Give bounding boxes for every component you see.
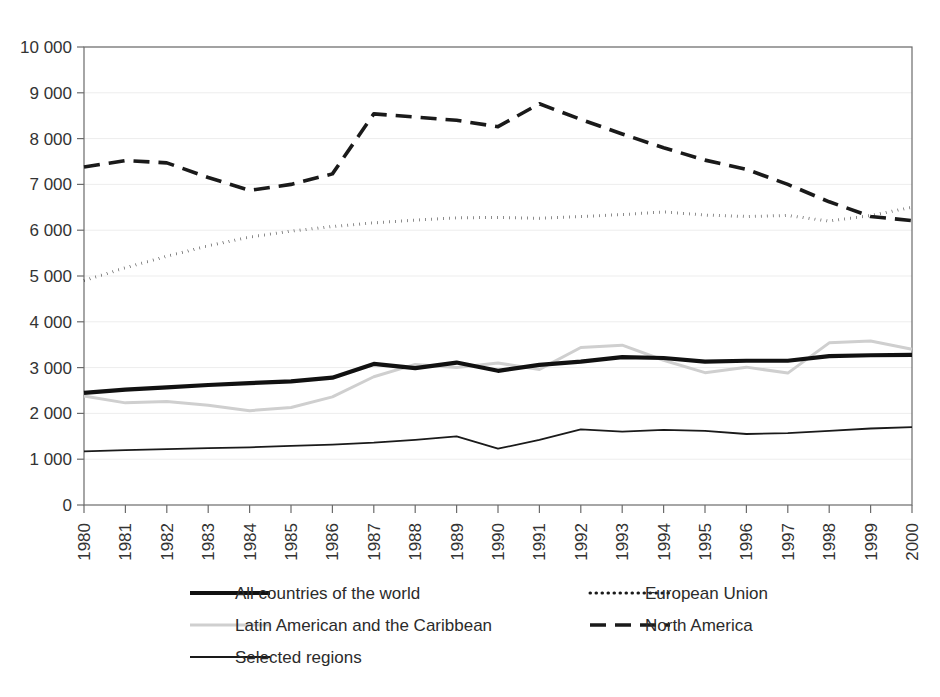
y-tick-label: 8 000	[29, 130, 72, 149]
chart-container: 01 0002 0003 0004 0005 0006 0007 0008 00…	[0, 0, 940, 697]
x-tick-label: 1992	[572, 523, 591, 561]
x-tick-label: 1990	[489, 523, 508, 561]
x-tick-label: 1994	[655, 523, 674, 561]
x-tick-label: 1986	[323, 523, 342, 561]
x-tick-label: 1996	[737, 523, 756, 561]
series-group	[84, 104, 912, 452]
line-chart: 01 0002 0003 0004 0005 0006 0007 0008 00…	[0, 0, 940, 697]
x-tick-label: 1997	[779, 523, 798, 561]
x-tick-label: 1998	[820, 523, 839, 561]
legend-label-european-union: European Union	[645, 584, 768, 603]
y-tick-label: 1 000	[29, 450, 72, 469]
legend-item-european-union[interactable]: European Union	[590, 584, 768, 603]
legend-group: All countries of the worldEuropean Union…	[190, 584, 768, 667]
legend-item-all-countries[interactable]: All countries of the world	[190, 584, 420, 603]
series-line-latin-america-caribbean	[84, 341, 912, 411]
series-line-selected-regions	[84, 427, 912, 451]
legend-label-selected-regions: Selected regions	[235, 648, 362, 667]
x-tick-label: 1982	[158, 523, 177, 561]
x-tick-label: 1999	[862, 523, 881, 561]
legend-item-selected-regions[interactable]: Selected regions	[190, 648, 362, 667]
x-axis-group: 1980198119821983198419851986198719881989…	[75, 505, 922, 561]
x-tick-label: 1991	[530, 523, 549, 561]
y-tick-label: 2 000	[29, 404, 72, 423]
legend-item-latin-america-caribbean[interactable]: Latin American and the Caribbean	[190, 616, 492, 635]
y-axis-group: 01 0002 0003 0004 0005 0006 0007 0008 00…	[20, 38, 84, 515]
y-tick-label: 9 000	[29, 84, 72, 103]
legend-label-all-countries: All countries of the world	[235, 584, 420, 603]
y-tick-label: 5 000	[29, 267, 72, 286]
x-tick-label: 1984	[241, 523, 260, 561]
x-tick-label: 1995	[696, 523, 715, 561]
y-tick-label: 0	[63, 496, 72, 515]
x-tick-label: 1987	[365, 523, 384, 561]
x-tick-label: 1988	[406, 523, 425, 561]
x-tick-label: 1983	[199, 523, 218, 561]
x-tick-label: 1989	[448, 523, 467, 561]
x-tick-label: 1980	[75, 523, 94, 561]
legend-label-latin-america-caribbean: Latin American and the Caribbean	[235, 616, 492, 635]
series-line-european-union	[84, 207, 912, 280]
legend-label-north-america: North America	[645, 616, 753, 635]
series-line-north-america	[84, 104, 912, 221]
x-tick-label: 1981	[116, 523, 135, 561]
y-tick-label: 6 000	[29, 221, 72, 240]
y-tick-label: 10 000	[20, 38, 72, 57]
x-tick-label: 1985	[282, 523, 301, 561]
legend-item-north-america[interactable]: North America	[590, 616, 753, 635]
y-tick-label: 4 000	[29, 313, 72, 332]
x-tick-label: 1993	[613, 523, 632, 561]
y-tick-label: 3 000	[29, 359, 72, 378]
gridlines-group	[84, 47, 912, 459]
y-tick-label: 7 000	[29, 175, 72, 194]
x-tick-label: 2000	[903, 523, 922, 561]
